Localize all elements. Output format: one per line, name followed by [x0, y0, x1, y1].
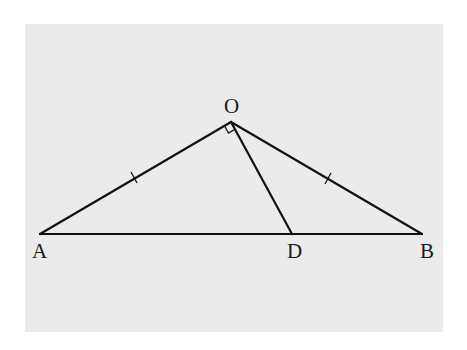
label-o: O: [224, 94, 239, 118]
label-b: B: [420, 239, 434, 263]
geometry-diagram: O A D B: [0, 0, 467, 350]
label-d: D: [287, 239, 302, 263]
label-a: A: [32, 239, 48, 263]
segment-ob: [231, 122, 422, 234]
segment-ao: [40, 122, 231, 234]
